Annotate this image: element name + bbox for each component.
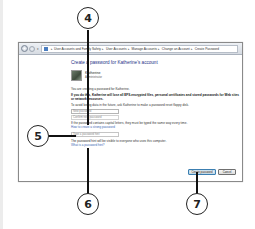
breadcrumb-item[interactable]: Manage Accounts [132, 47, 157, 51]
password-hint-link[interactable]: What is a password hint? [71, 143, 239, 147]
callout-6-leader [87, 148, 89, 194]
page-edge [0, 0, 3, 229]
breadcrumb[interactable]: ▸ User Accounts and Family Safety ▸ User… [41, 45, 238, 53]
breadcrumb-item[interactable]: User Accounts [106, 47, 127, 51]
address-bar: ▾ ▸ User Accounts and Family Safety ▸ Us… [19, 43, 242, 55]
control-panel-icon [44, 47, 48, 51]
create-password-window: ▾ ▸ User Accounts and Family Safety ▸ Us… [18, 42, 243, 182]
breadcrumb-item-current[interactable]: Create Password [195, 47, 219, 51]
callout-7-leader [196, 172, 198, 194]
callout-4: 4 [77, 7, 99, 29]
back-button[interactable] [21, 45, 28, 52]
create-password-button[interactable]: Create password [188, 169, 216, 175]
password-hint-input[interactable]: Type a password hint [71, 132, 119, 137]
info-text: You are creating a password for Katherin… [71, 87, 239, 91]
breadcrumb-item[interactable]: Change an Account [162, 47, 190, 51]
forward-button[interactable] [29, 46, 35, 52]
advice-text: To avoid losing data in the future, ask … [71, 103, 239, 107]
breadcrumb-item[interactable]: User Accounts and Family Safety [54, 47, 101, 51]
new-password-input[interactable]: New password [71, 109, 119, 114]
strong-password-link[interactable]: How to create a strong password [71, 125, 239, 129]
user-avatar [71, 70, 82, 81]
confirm-password-input[interactable]: Confirm new password [71, 115, 119, 120]
callout-7: 7 [186, 193, 208, 215]
history-dropdown-icon[interactable]: ▾ [37, 47, 39, 51]
callout-5: 5 [27, 125, 49, 147]
warning-text: If you do this, Katherine will lose all … [71, 93, 239, 101]
user-card: Katherine Administrator [71, 70, 239, 81]
page-title: Create a password for Katherine's accoun… [71, 60, 239, 65]
content-area: Create a password for Katherine's accoun… [71, 60, 239, 147]
callout-4-leader [87, 30, 89, 125]
cancel-button[interactable]: Cancel [218, 169, 236, 175]
callout-6: 6 [77, 193, 99, 215]
callout-5-leader [49, 135, 76, 137]
